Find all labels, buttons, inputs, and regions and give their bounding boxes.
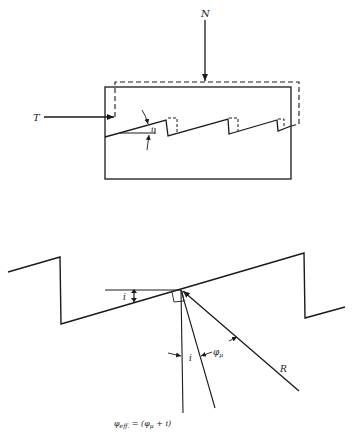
vertical-line bbox=[181, 290, 183, 413]
bottom-diagram: i R i φμ φeff. = (φμ + i) bbox=[8, 253, 345, 430]
angle-i2-arrow-right bbox=[201, 352, 212, 356]
displaced-upper-block bbox=[115, 82, 299, 126]
equation-lhs-sub: eff. bbox=[120, 422, 130, 430]
resultant-label: R bbox=[279, 364, 287, 374]
resultant-force-arrow bbox=[183, 291, 299, 391]
displaced-tooth-1 bbox=[168, 118, 177, 133]
top-angle-label: i bbox=[151, 125, 154, 134]
normal-force-label: N bbox=[200, 8, 211, 19]
friction-angle-arrow-right bbox=[229, 337, 237, 341]
displaced-tooth-2 bbox=[229, 118, 238, 131]
angle-i2-arrow-left bbox=[168, 353, 181, 356]
surface-normal-line bbox=[181, 290, 215, 408]
angle-i-arrow-bottom bbox=[147, 135, 149, 150]
figure-canvas: i N T i R i φμ bbox=[0, 0, 354, 439]
sawtooth-joint bbox=[105, 119, 291, 137]
normal-offset-angle-label: i bbox=[189, 353, 192, 363]
asperity-surface bbox=[8, 253, 345, 324]
angle-i-arrow-top bbox=[142, 110, 148, 124]
friction-angle-label: φμ bbox=[213, 347, 223, 359]
bottom-angle-i-label: i bbox=[123, 292, 126, 302]
top-diagram: i N T bbox=[33, 8, 299, 179]
effective-friction-equation: φeff. = (φμ + i) bbox=[114, 419, 171, 430]
shear-force-label: T bbox=[33, 112, 41, 123]
displaced-tooth-3 bbox=[278, 119, 284, 128]
